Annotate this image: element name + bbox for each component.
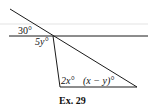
angle-label-x-minus-y: (x − y)° [83,76,114,86]
triangle-left-side [53,36,60,87]
angle-label-30: 30° [18,26,32,36]
angle-label-2x: 2x° [61,76,74,86]
angle-label-5y: 5y° [35,37,48,47]
figure-caption: Ex. 29 [59,96,86,106]
